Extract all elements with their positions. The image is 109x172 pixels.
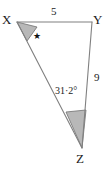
side-length-label-xy: 5: [51, 6, 57, 17]
side-yz-line: [82, 22, 92, 148]
unknown-angle-star-marker: ★: [33, 32, 41, 41]
vertex-label-y: Y: [93, 13, 102, 26]
angle-measure-label-z: 31·2°: [55, 86, 77, 96]
side-length-label-yz: 9: [94, 72, 100, 83]
vertex-label-x: X: [2, 13, 11, 26]
vertex-label-z: Z: [76, 152, 84, 165]
triangle-diagram: X Y Z 5 9 31·2° ★: [0, 0, 109, 172]
